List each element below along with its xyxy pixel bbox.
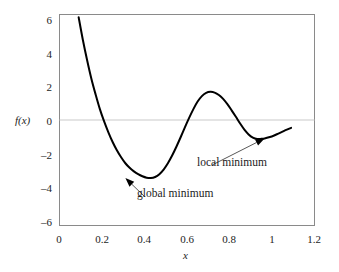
x-tick-label-1: 1 (269, 234, 275, 245)
local-minimum-arrowhead-icon (255, 138, 265, 145)
global-minimum-label: global minimum (137, 188, 213, 200)
x-tick-label-1p2: 1.2 (307, 234, 321, 245)
function-curve (79, 17, 292, 178)
y-tick-label-neg2: –2 (30, 150, 52, 161)
function-plot-figure: 6 4 2 0 –2 –4 –6 f(x) 0 0.2 0.4 0.6 0.8 … (0, 0, 339, 272)
y-tick-label-neg6: –6 (30, 217, 52, 228)
x-tick-label-0p4: 0.4 (137, 234, 151, 245)
y-tick-label-neg4: –4 (30, 183, 52, 194)
plot-canvas (0, 0, 339, 272)
y-tick-label-0: 0 (32, 116, 52, 127)
y-tick-label-6: 6 (32, 15, 52, 26)
x-axis-title: x (183, 250, 188, 261)
x-tick-label-0: 0 (56, 234, 62, 245)
y-tick-label-2: 2 (32, 82, 52, 93)
x-tick-label-0p8: 0.8 (222, 234, 236, 245)
y-tick-label-4: 4 (32, 49, 52, 60)
x-tick-label-0p6: 0.6 (180, 234, 194, 245)
y-axis-title: f(x) (15, 115, 30, 126)
local-minimum-label: local minimum (197, 157, 267, 169)
x-tick-label-0p2: 0.2 (95, 234, 109, 245)
